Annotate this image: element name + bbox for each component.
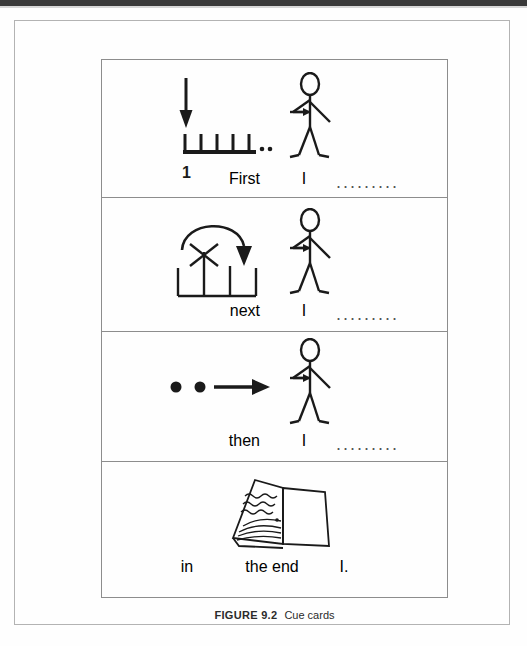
cue-card-row: then I ......... — [102, 332, 447, 462]
scan-edge-shadow — [0, 6, 527, 8]
down-arrow-tally-marks-symbol — [174, 76, 279, 172]
sentence-starter: in — [162, 558, 212, 576]
cue-cards-table: 1 — [101, 59, 448, 598]
sentence-starter: First — [160, 170, 260, 188]
open-book-icon — [225, 476, 341, 562]
cue-card-symbol-area: in the end I. — [102, 462, 447, 597]
sentence-blank-dots: ......... — [336, 304, 399, 325]
figure-caption: FIGURE 9.2Cue cards — [101, 609, 448, 621]
page-frame-border: 1 — [14, 20, 510, 625]
stick-figure-pointing-to-self — [286, 72, 342, 166]
stick-figure-pointing-to-self — [286, 338, 342, 432]
figure-caption-text: Cue cards — [284, 609, 334, 621]
sentence-pronoun: I. — [324, 558, 364, 576]
sentence-pronoun: I — [284, 170, 324, 188]
sentence-starter: then — [160, 432, 260, 450]
cue-card-row: 1 — [102, 60, 447, 198]
cue-card-symbol-area: then I ......... — [102, 332, 447, 461]
sentence-middle: the end — [227, 558, 317, 576]
stick-figure-pointing-to-self — [286, 208, 342, 302]
sentence-pronoun: I — [284, 302, 324, 320]
document-page: 1 — [0, 0, 527, 646]
sentence-pronoun: I — [284, 432, 324, 450]
cue-card-row: next I ......... — [102, 198, 447, 332]
sentence-blank-dots: ......... — [336, 434, 399, 455]
two-dots-arrow-symbol — [164, 372, 284, 406]
figure-number-label: FIGURE 9.2 — [214, 609, 277, 621]
cue-card-symbol-area: 1 — [102, 60, 447, 197]
sentence-starter: next — [160, 302, 260, 320]
sentence-blank-dots: ......... — [336, 172, 399, 193]
cue-card-row: in the end I. — [102, 462, 447, 597]
cue-card-symbol-area: next I ......... — [102, 198, 447, 331]
curved-arrow-crossed-tally-symbol — [172, 210, 282, 306]
